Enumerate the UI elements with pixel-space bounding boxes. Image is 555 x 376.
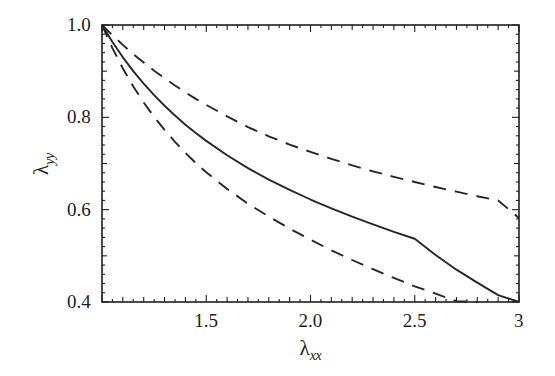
figure-container: 1.0 0.8 0.6 0.4 1.5 2.0 2.5 3 λyy λxx [0,0,555,376]
plot-frame [102,25,519,302]
x-axis-lambda-symbol: λ [300,336,310,360]
y-axis-subscript: yy [42,152,57,164]
y-tick-label: 0.6 [67,200,91,219]
y-tick-label: 0.4 [67,292,91,311]
x-tick-label: 2.5 [403,311,427,330]
x-tick-label: 3 [514,311,524,330]
curve-lower-dashed [102,25,477,302]
y-tick-label: 1.0 [67,15,91,34]
y-axis-title-text: λyy [31,152,56,174]
curve-upper-dashed [102,25,519,218]
x-tick-label: 2.0 [299,311,323,330]
x-tick-label: 1.5 [194,311,218,330]
y-axis-title: λyy [24,134,64,194]
x-axis-subscript: xx [310,348,322,363]
curve-solid-middle [102,25,519,302]
axis-ticks [102,25,519,302]
y-tick-label: 0.8 [67,107,91,126]
plot-canvas [0,0,555,376]
x-axis-title: λxx [300,338,322,363]
y-axis-lambda-symbol: λ [29,164,53,174]
data-curves [102,25,519,302]
